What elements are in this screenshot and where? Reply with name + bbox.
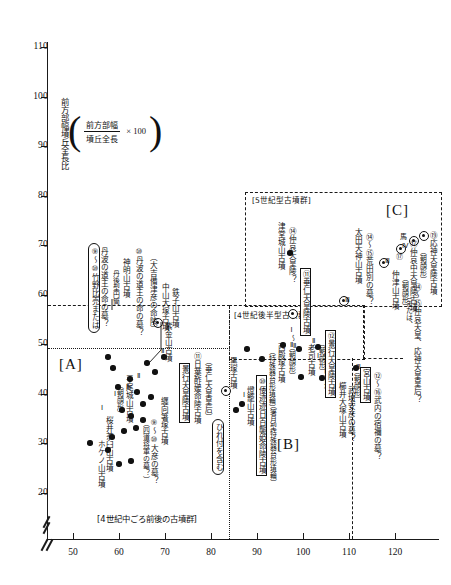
- region-caption-4c-mid: [4世紀中ごろ前後の古墳群]: [97, 515, 197, 524]
- point-label: 景行天皇陵古墳: [179, 363, 190, 423]
- point-label: 仲津山古墳: [390, 270, 398, 310]
- annotation-roman: Ⅱ: [137, 372, 140, 381]
- y-tick-100: 100: [14, 92, 48, 102]
- x-axis: [47, 539, 439, 540]
- y-tick-90: 90: [14, 141, 48, 151]
- data-point[interactable]: [140, 401, 145, 406]
- formula-paren-open: (: [68, 118, 81, 144]
- data-point[interactable]: [233, 407, 238, 412]
- annotation-roman: Ⅰ: [101, 404, 103, 413]
- data-point[interactable]: [296, 346, 301, 351]
- annotation-roman: Ⅰ: [243, 391, 245, 400]
- point-label: （朝顔形）: [417, 248, 425, 283]
- point-label: ホケノ山古墳: [96, 440, 104, 488]
- group-label-c: [C]: [386, 203, 409, 218]
- point-label: （朝顔形）: [114, 382, 122, 417]
- x-tick-60: 60: [99, 547, 139, 557]
- group-label-b: [B]: [277, 437, 300, 452]
- point-label: ⑪垂仁天皇陵古墳: [300, 268, 311, 336]
- data-point[interactable]: [134, 389, 139, 394]
- point-label: 燈籠山古墳: [245, 386, 253, 426]
- x-tick-100: 100: [283, 547, 323, 557]
- point-label: ⑭～⑮荒田別の墓？: [364, 233, 372, 305]
- point-label: 宮山古墳: [360, 367, 371, 403]
- formula-paren-close: ): [149, 118, 162, 144]
- region-4c-late-right-dashed: [363, 305, 364, 358]
- y-tick-40: 40: [14, 389, 48, 399]
- y-tick-60: 60: [14, 290, 48, 300]
- formula-multiplier: × 100: [126, 126, 146, 136]
- annotation-roman: Ⅱ: [126, 383, 129, 392]
- point-label: （箸月型特殊器台形埴輪）: [267, 402, 275, 486]
- y-tick-110: 110: [14, 42, 48, 52]
- data-point[interactable]: [87, 440, 92, 445]
- formula-denominator: 墳丘全長: [84, 131, 120, 144]
- annotation-roman: Ⅱ: [312, 337, 315, 346]
- annotation-roman: Ⅳ: [402, 242, 408, 251]
- y-tick-70: 70: [14, 240, 48, 250]
- data-point[interactable]: [128, 458, 133, 463]
- y-axis-title: 前方部幅墳丘全長比: [58, 98, 68, 170]
- y-tick-20: 20: [14, 488, 48, 498]
- point-label: ⑲応神天皇陵古墳: [428, 231, 436, 295]
- data-point[interactable]: [259, 356, 264, 361]
- data-point[interactable]: [144, 360, 149, 365]
- point-label: ⑫～⑯武内の宿禰の墓？: [372, 372, 380, 460]
- data-point[interactable]: [110, 365, 115, 370]
- point-label: 西殿塚古墳: [276, 343, 284, 383]
- x-tick-50: 50: [53, 547, 93, 557]
- point-label: 中山大塚古墳: [160, 283, 168, 331]
- annotation-roman: Ⅱ: [293, 342, 296, 351]
- data-point[interactable]: [148, 394, 153, 399]
- data-point[interactable]: [133, 425, 138, 430]
- point-label: 丹波の道主の命の墓？: [99, 247, 107, 327]
- point-label: （特殊器台形埴輪）: [266, 348, 274, 411]
- point-label: 老司古墳: [306, 344, 314, 376]
- x-tick-80: 80: [191, 547, 231, 557]
- data-point[interactable]: [116, 461, 121, 466]
- point-label: ひれ付を含む: [212, 419, 224, 475]
- data-point[interactable]: [244, 346, 249, 351]
- data-point[interactable]: [105, 354, 110, 359]
- chart-canvas: 110 100 90 80 70 60 50 40 30 20 50 60 70…: [0, 0, 451, 585]
- x-tick-110: 110: [329, 547, 369, 557]
- formula-numerator: 前方部幅: [84, 119, 120, 131]
- x-tick-90: 90: [237, 547, 277, 557]
- x-tick-70: 70: [145, 547, 185, 557]
- data-point[interactable]: [298, 374, 303, 379]
- y-axis-formula: ( 前方部幅 墳丘全長 × 100 ): [68, 118, 162, 144]
- point-label: ⑭～⑮仲哀天皇、応神天皇皇后？: [412, 283, 420, 403]
- region-caption-5c: [5世紀型古墳群]: [252, 196, 311, 205]
- y-tick-50: 50: [14, 339, 48, 349]
- group-label-a: [A]: [59, 357, 83, 372]
- annotation-roman: Ⅲ: [345, 296, 350, 305]
- annotation-marker-uma: 馬: [400, 233, 407, 242]
- point-label: 鉄子山古墳: [170, 288, 178, 328]
- data-point[interactable]: [239, 401, 244, 406]
- data-point[interactable]: [121, 428, 126, 433]
- point-label: ⑭仲哀天皇陵？: [287, 227, 295, 283]
- point-label: （または、: [403, 293, 411, 328]
- region-b-left-dotted: [229, 305, 230, 539]
- region-a-bottom-dotted: [48, 348, 230, 349]
- annotation-roman: Ⅱ: [161, 347, 164, 356]
- y-tick-80: 80: [14, 191, 48, 201]
- annotation-number: ⑰: [396, 253, 403, 262]
- annotation-roman: Ⅰ: [317, 352, 319, 361]
- point-label: （大吉備津彦の命陵）: [148, 253, 156, 333]
- point-label: 太田天神山古墳: [353, 228, 361, 284]
- point-label: ⑫景行天皇陵古墳: [325, 330, 336, 398]
- point-label: 丹後型円筒: [110, 270, 118, 305]
- data-point[interactable]: [152, 369, 157, 374]
- point-label: 桜井茶臼山古墳: [104, 416, 112, 472]
- annotation-roman: Ⅲ: [356, 363, 361, 372]
- y-tick-30: 30: [14, 438, 48, 448]
- point-label: 神明山古墳: [121, 258, 129, 298]
- point-label: 津堂城山古墳: [276, 222, 284, 270]
- x-tick-120: 120: [375, 547, 415, 557]
- point-label: （四道将軍の墓？）: [140, 420, 148, 483]
- point-label: 纒向箸塚古墳: [159, 397, 167, 445]
- region-c-lower-dashed: [363, 358, 403, 359]
- point-label: （垂仁天皇皇后）: [203, 357, 211, 421]
- point-label: ⑩丹波の道主の命の墓？: [134, 247, 142, 336]
